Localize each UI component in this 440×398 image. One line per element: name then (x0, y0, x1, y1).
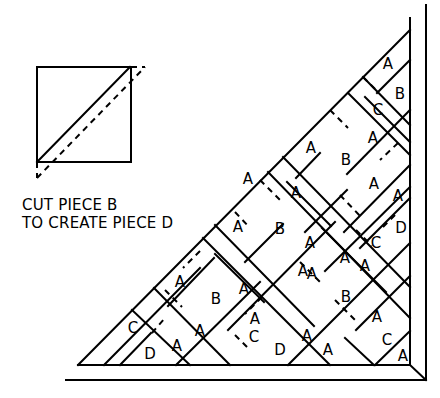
piece-label-a: A (302, 327, 313, 345)
caption-line-2: TO CREATE PIECE D (22, 214, 173, 232)
piece-label-a: A (291, 184, 302, 202)
piece-label-c: C (128, 319, 138, 337)
piece-label-a: A (360, 257, 371, 275)
piece-label-c: C (371, 234, 381, 252)
caption-line-1: CUT PIECE B (22, 196, 173, 214)
piece-label-b: B (341, 288, 351, 306)
piece-label-b: B (341, 151, 351, 169)
piece-label-a: A (340, 249, 351, 267)
piece-label-a: A (195, 322, 206, 340)
piece-label-d: D (274, 341, 286, 359)
piece-label-a: A (298, 262, 309, 280)
cut-piece-illustration (37, 67, 145, 178)
piece-label-b: B (275, 220, 285, 238)
piece-label-a: A (307, 265, 318, 283)
mitred-corner (410, 365, 426, 380)
piece-label-a: A (239, 280, 250, 298)
piece-label-a: A (383, 55, 394, 73)
piece-label-a: A (323, 341, 334, 359)
instruction-caption: CUT PIECE B TO CREATE PIECE D (22, 196, 173, 232)
piece-label-b: B (211, 290, 221, 308)
piece-label-c: C (373, 101, 383, 119)
piece-label-a: A (175, 273, 186, 291)
piece-label-c: C (382, 331, 392, 349)
piece-label-d: D (395, 219, 407, 237)
piece-label-a: A (305, 234, 316, 252)
piece-label-a: A (372, 308, 383, 326)
piece-label-a: A (243, 170, 254, 188)
cut-line (37, 67, 130, 162)
piece-label-a: A (368, 129, 379, 147)
piece-label-a: A (398, 347, 409, 365)
piece-label-a: A (250, 310, 261, 328)
piece-label-c: C (249, 328, 259, 346)
piece-label-a: A (233, 218, 244, 236)
piece-label-a: A (306, 139, 317, 157)
piece-label-a: A (369, 175, 380, 193)
piece-label-b: B (395, 85, 405, 103)
piece-label-d: D (144, 345, 156, 363)
piece-label-a: A (393, 187, 404, 205)
strip-lines-down-right (132, 77, 410, 365)
piece-label-a: A (172, 337, 183, 355)
